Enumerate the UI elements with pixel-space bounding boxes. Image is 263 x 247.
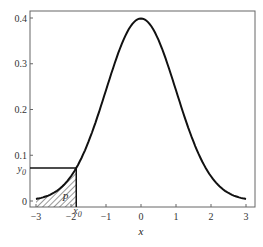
- x-tick-label: −3: [31, 211, 42, 222]
- plot-border: [30, 11, 255, 207]
- x-tick-label: 0: [139, 211, 144, 222]
- hatched-area-p: [36, 168, 76, 207]
- pdf-curve: [36, 19, 246, 200]
- normal-distribution-chart: −3−2−10123x 00.10.20.30.4 y0x0P: [0, 0, 263, 247]
- y-tick-label: 0.1: [15, 150, 28, 161]
- normal-curve-line: [36, 19, 246, 200]
- x-axis-ticks: −3−2−10123x: [31, 204, 249, 237]
- x-tick-label: 2: [209, 211, 214, 222]
- x-tick-label: −1: [101, 211, 112, 222]
- area-p-label: P: [61, 192, 68, 203]
- y-tick-label: 0.2: [15, 104, 28, 115]
- probability-area: [36, 168, 76, 207]
- y0-label: y0: [17, 163, 26, 177]
- y-tick-label: 0.4: [15, 13, 28, 24]
- y-tick-label: 0.3: [15, 58, 28, 69]
- x-tick-label: 3: [244, 211, 249, 222]
- x-axis-title: x: [138, 225, 144, 237]
- y-tick-label: 0: [22, 196, 27, 207]
- x-tick-label: 1: [174, 211, 179, 222]
- plot-frame: [30, 11, 255, 207]
